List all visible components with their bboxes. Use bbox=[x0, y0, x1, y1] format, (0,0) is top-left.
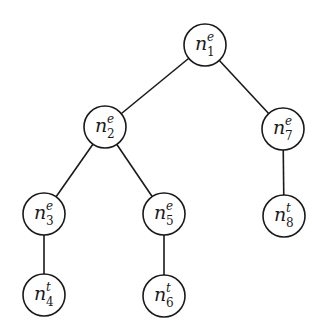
node-label-subscript: 6 bbox=[166, 296, 174, 310]
node-label-base: n bbox=[34, 201, 46, 223]
node-label-base: n bbox=[154, 283, 166, 305]
node-label-subscript: 2 bbox=[107, 127, 115, 141]
node-label-superscript: t bbox=[286, 201, 291, 215]
node-n2: ne2 bbox=[84, 106, 126, 148]
node-n1: ne1 bbox=[184, 24, 226, 66]
node-label-superscript: t bbox=[46, 280, 51, 294]
node-n7: ne7 bbox=[262, 108, 304, 150]
node-label-base: n bbox=[95, 114, 107, 136]
node-label-base: n bbox=[154, 201, 166, 223]
node-label-subscript: 5 bbox=[166, 214, 174, 228]
node-label-superscript: e bbox=[285, 114, 292, 128]
node-label-base: n bbox=[273, 116, 285, 138]
node-label-superscript: e bbox=[46, 199, 53, 213]
node-label-superscript: e bbox=[107, 112, 114, 126]
node-label-base: n bbox=[34, 282, 46, 304]
node-n6: nt6 bbox=[143, 275, 185, 317]
node-label-subscript: 7 bbox=[285, 129, 293, 143]
node-label-base: n bbox=[195, 32, 207, 54]
node-label-subscript: 8 bbox=[286, 216, 294, 230]
node-label-subscript: 4 bbox=[46, 295, 54, 309]
node-label-superscript: t bbox=[166, 281, 171, 295]
node-label-base: n bbox=[274, 203, 286, 225]
node-n5: ne5 bbox=[143, 193, 185, 235]
edges bbox=[44, 45, 284, 296]
node-n8: nt8 bbox=[263, 195, 305, 237]
node-label-superscript: e bbox=[207, 30, 214, 44]
tree-diagram: ne1ne2ne7ne3ne5nt8nt4nt6 bbox=[0, 0, 322, 327]
node-label-subscript: 3 bbox=[46, 214, 54, 228]
node-n3: ne3 bbox=[23, 193, 65, 235]
node-n4: nt4 bbox=[23, 274, 65, 316]
node-label-superscript: e bbox=[166, 199, 173, 213]
node-label-subscript: 1 bbox=[207, 45, 215, 59]
